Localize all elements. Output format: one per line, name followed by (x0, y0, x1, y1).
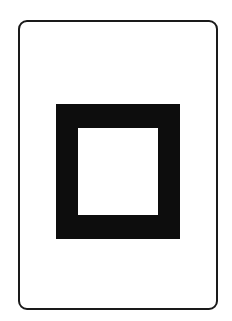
hollow-square-icon (56, 104, 180, 239)
square-hole (78, 128, 158, 215)
